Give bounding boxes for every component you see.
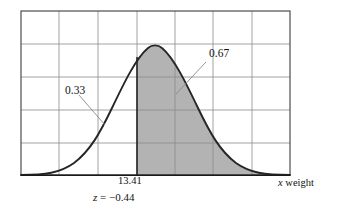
x-axis-tick-label: 13.41 [118,176,142,187]
x-axis-label: x weight [278,178,314,189]
x-axis-name: weight [285,177,314,188]
area-label-left: 0.33 [65,85,85,97]
z-number: −0.44 [109,191,134,203]
normal-curve-figure: 0.33 0.67 13.41 z = −0.44 x weight [0,0,337,217]
z-value-label: z = −0.44 [93,192,134,203]
area-label-right: 0.67 [209,48,229,60]
